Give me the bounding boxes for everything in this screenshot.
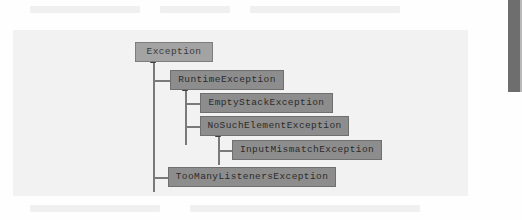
- branch-runtime: [153, 80, 171, 82]
- node-too-many-listeners-exception: TooManyListenersException: [168, 167, 336, 187]
- ghost-text-line: [30, 6, 140, 13]
- branch-empty-stack: [185, 103, 201, 105]
- ghost-text-line: [190, 205, 420, 212]
- node-label: EmptyStackException: [209, 97, 325, 108]
- node-label: NoSuchElementException: [207, 120, 341, 131]
- ghost-text-line: [250, 6, 400, 13]
- node-label: InputMismatchException: [240, 144, 374, 155]
- node-label: Exception: [147, 46, 202, 57]
- trunk-runtime: [185, 85, 187, 145]
- node-no-such-element-exception: NoSuchElementException: [200, 116, 349, 136]
- branch-input-mismatch: [218, 150, 233, 152]
- ghost-text-line: [30, 205, 160, 212]
- diagram-canvas: ExceptionRuntimeExceptionEmptyStackExcep…: [13, 30, 468, 196]
- diagram-panel: ExceptionRuntimeExceptionEmptyStackExcep…: [13, 30, 468, 196]
- branch-too-many-listeners: [153, 177, 169, 179]
- node-label: TooManyListenersException: [176, 171, 329, 182]
- node-runtime-exception: RuntimeException: [170, 70, 284, 90]
- ghost-text-line: [160, 6, 230, 13]
- node-label: RuntimeException: [178, 74, 276, 85]
- node-input-mismatch-exception: InputMismatchException: [232, 140, 382, 160]
- node-exception: Exception: [135, 42, 213, 62]
- trunk-exception: [153, 57, 155, 192]
- page-edge-tab: [508, 0, 520, 92]
- scanned-page: ExceptionRuntimeExceptionEmptyStackExcep…: [0, 0, 522, 220]
- branch-no-such-element: [185, 126, 201, 128]
- node-empty-stack-exception: EmptyStackException: [200, 93, 333, 113]
